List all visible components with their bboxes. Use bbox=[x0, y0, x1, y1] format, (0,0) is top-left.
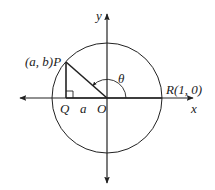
point-Q-label: Q bbox=[60, 101, 70, 116]
x-axis-label: x bbox=[190, 101, 197, 116]
y-axis-label: y bbox=[94, 8, 102, 23]
origin-label: O bbox=[97, 101, 107, 116]
segment-a-label: a bbox=[80, 101, 87, 116]
right-angle-marker bbox=[66, 91, 73, 98]
point-P-label: (a, b)P bbox=[25, 54, 61, 69]
unit-circle-diagram: y x (a, b)P Q a O θ R(1, 0) bbox=[0, 0, 215, 190]
theta-label: θ bbox=[118, 71, 125, 86]
point-R-label: R(1, 0) bbox=[165, 82, 202, 97]
